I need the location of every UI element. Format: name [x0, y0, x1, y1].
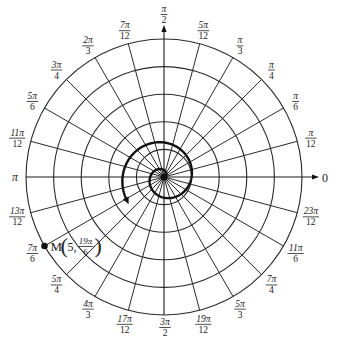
- spoke-75: [164, 44, 200, 177]
- point-m-angle-fraction: 19π6: [78, 236, 94, 257]
- point-m-radius: 5,: [67, 240, 76, 254]
- spoke-240: [95, 177, 164, 297]
- angle-label-210-numerator: 7π: [28, 243, 38, 253]
- spoke-315: [164, 177, 262, 275]
- angle-label-45-numerator: π: [269, 60, 274, 70]
- angle-label-30-numerator: π: [293, 91, 298, 101]
- spoke-30: [164, 108, 284, 177]
- angle-label-195-denominator: 12: [12, 217, 22, 227]
- point-m-theta: 19π6: [78, 236, 94, 257]
- angle-label-135-numerator: 3π: [51, 60, 62, 70]
- angle-label-315: 7π4: [266, 274, 278, 295]
- spoke-330: [164, 177, 284, 246]
- angle-label-75-numerator: 5π: [199, 20, 209, 30]
- angle-label-15-numerator: π: [308, 128, 313, 138]
- spoke-300: [164, 177, 233, 297]
- polar-axis-label: 0: [322, 171, 328, 185]
- angle-label-165-denominator: 12: [12, 139, 22, 149]
- angle-label-105-denominator: 12: [120, 31, 130, 41]
- angle-label-90-denominator: 2: [162, 15, 167, 25]
- angle-label-135-denominator: 4: [54, 71, 59, 81]
- angle-label-300-denominator: 3: [238, 310, 243, 320]
- angle-label-255-numerator: 17π: [118, 314, 133, 324]
- angle-label-225: 5π4: [51, 274, 63, 295]
- spoke-45: [164, 79, 262, 177]
- angle-label-300: 5π3: [234, 299, 246, 320]
- angle-label-195: 13π12: [9, 206, 25, 227]
- angle-label-330: 11π6: [288, 243, 304, 264]
- spoke-135: [66, 79, 164, 177]
- angle-label-195-numerator: 13π: [10, 206, 25, 216]
- angle-label-330-denominator: 6: [293, 254, 298, 264]
- angle-label-300-numerator: 5π: [235, 299, 245, 309]
- angle-label-60-denominator: 3: [238, 46, 243, 56]
- angle-label-225-denominator: 4: [54, 285, 59, 295]
- angle-label-210-denominator: 6: [30, 254, 35, 264]
- pi-axis-label: π: [12, 170, 19, 184]
- spoke-195: [31, 177, 164, 213]
- angle-label-30: π6: [292, 91, 299, 112]
- angle-label-90: π2: [161, 4, 168, 25]
- spoke-60: [164, 57, 233, 177]
- angle-label-45: π4: [268, 60, 275, 81]
- angle-label-285-denominator: 12: [199, 325, 209, 335]
- angle-label-120-numerator: 2π: [83, 35, 93, 45]
- point-m-dot: [41, 243, 48, 250]
- spoke-225: [66, 177, 164, 275]
- angle-label-15-denominator: 12: [306, 139, 316, 149]
- angle-label-240-numerator: 4π: [83, 299, 93, 309]
- angle-label-105-numerator: 7π: [120, 20, 130, 30]
- polar-axis-arrowhead: [312, 174, 319, 179]
- angle-label-105: 7π12: [119, 20, 130, 41]
- pole-dot: [161, 174, 168, 181]
- angle-label-315-numerator: 7π: [267, 274, 277, 284]
- angle-label-270-denominator: 2: [163, 328, 168, 338]
- angle-label-240-denominator: 3: [86, 310, 91, 320]
- spoke-150: [44, 108, 164, 177]
- angle-label-150-numerator: 5π: [28, 91, 38, 101]
- angle-label-270: 3π2: [159, 317, 171, 338]
- spoke-345: [164, 177, 297, 213]
- angle-label-45-denominator: 4: [269, 71, 274, 81]
- angle-label-120: 2π3: [82, 35, 94, 56]
- spoke-105: [128, 44, 164, 177]
- angle-label-135: 3π4: [51, 60, 63, 81]
- point-m-theta-numerator: 19π: [79, 236, 93, 246]
- angle-label-90-numerator: π: [162, 4, 167, 14]
- angle-label-165-numerator: 11π: [10, 128, 24, 138]
- angle-label-345: 23π12: [303, 206, 319, 227]
- angle-label-270-numerator: 3π: [159, 317, 170, 327]
- angle-label-345-denominator: 12: [306, 217, 316, 227]
- angle-label-315-denominator: 4: [269, 285, 274, 295]
- angle-label-15: π12: [305, 128, 317, 149]
- angle-label-30-denominator: 6: [293, 102, 298, 112]
- angle-label-255: 17π12: [117, 314, 133, 335]
- angle-label-285: 19π12: [195, 314, 211, 335]
- spoke-15: [164, 141, 297, 177]
- angle-label-165: 11π12: [9, 128, 25, 149]
- angle-label-60-numerator: π: [238, 35, 243, 45]
- angle-label-330-numerator: 11π: [289, 243, 303, 253]
- angle-label-150: 5π6: [27, 91, 39, 112]
- angle-label-75: 5π12: [198, 20, 210, 41]
- angle-label-75-denominator: 12: [199, 31, 209, 41]
- angle-label-255-denominator: 12: [120, 325, 130, 335]
- angle-label-285-numerator: 19π: [196, 314, 211, 324]
- angle-label-150-denominator: 6: [30, 102, 35, 112]
- point-m-theta-denominator: 6: [83, 247, 88, 257]
- angle-label-345-numerator: 23π: [304, 206, 319, 216]
- polar-grid-diagram: π12π6π4π35π127π122π33π45π611π1213π127π65…: [0, 0, 339, 342]
- angle-label-225-numerator: 5π: [52, 274, 62, 284]
- angle-label-120-denominator: 3: [86, 46, 91, 56]
- point-m-paren-right: ): [94, 233, 101, 258]
- angle-label-240: 4π3: [82, 299, 94, 320]
- vertical-axis-arrowhead: [161, 25, 166, 32]
- angle-label-210: 7π6: [27, 243, 39, 264]
- angle-label-60: π3: [237, 35, 244, 56]
